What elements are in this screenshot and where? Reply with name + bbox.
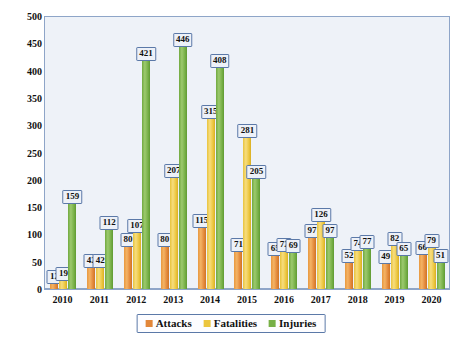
legend-item-fatalities[interactable]: Fatalities: [204, 317, 257, 329]
bar-group: 71281205: [229, 16, 266, 289]
bar-injuries-2016: 69: [289, 251, 297, 289]
bar-group: 80207446: [155, 16, 192, 289]
legend-item-label: Attacks: [156, 317, 192, 329]
legend-swatch-icon: [146, 320, 153, 327]
data-label: 65: [396, 242, 411, 256]
bar-group: 115315408: [192, 16, 229, 289]
y-tick-label: 300: [4, 120, 42, 131]
bar-injuries-2015: 205: [252, 177, 260, 289]
data-label: 159: [63, 190, 83, 204]
bar-group: 527477: [340, 16, 377, 289]
bar-fatalities-2016: 72: [280, 250, 288, 289]
bar-fatalities-2012: 107: [133, 231, 141, 289]
bar-group: 657269: [266, 16, 303, 289]
x-tick-label: 2010: [44, 292, 81, 310]
x-axis-tick-labels: 2010201120122013201420152016201720182019…: [44, 292, 450, 310]
bar-injuries-2018: 77: [363, 247, 371, 289]
bar-groups: 1219159424211280107421802074461153154087…: [45, 16, 450, 289]
bar-fatalities-2015: 281: [243, 136, 251, 289]
bar-attacks-2010: 12: [50, 282, 58, 289]
legend-item-injuries[interactable]: Injuries: [269, 317, 316, 329]
bar-attacks-2015: 71: [234, 250, 242, 289]
y-tick-label: 50: [4, 256, 42, 267]
legend-swatch-icon: [204, 320, 211, 327]
bar-fatalities-2010: 19: [59, 279, 67, 289]
y-tick-label: 400: [4, 65, 42, 76]
bar-group: 4242112: [82, 16, 119, 289]
legend-item-label: Injuries: [279, 317, 316, 329]
y-tick-label: 450: [4, 38, 42, 49]
y-tick-label: 150: [4, 202, 42, 213]
data-label: 126: [311, 208, 331, 222]
bar-injuries-2012: 421: [142, 59, 150, 289]
bar-injuries-2020: 51: [437, 261, 445, 289]
data-label: 69: [286, 239, 301, 253]
data-label: 281: [238, 124, 258, 138]
bar-group: 498265: [376, 16, 413, 289]
legend-item-attacks[interactable]: Attacks: [146, 317, 192, 329]
x-axis-line: [44, 289, 450, 290]
bar-attacks-2019: 49: [382, 262, 390, 289]
bar-attacks-2016: 65: [271, 254, 279, 289]
legend-swatch-icon: [269, 320, 276, 327]
legend-item-label: Fatalities: [214, 317, 257, 329]
x-tick-label: 2013: [155, 292, 192, 310]
bar-group: 667951: [413, 16, 450, 289]
x-tick-label: 2011: [81, 292, 118, 310]
bar-injuries-2014: 408: [216, 66, 224, 289]
data-label: 51: [433, 249, 448, 263]
bar-injuries-2013: 446: [179, 45, 187, 289]
bar-injuries-2019: 65: [400, 254, 408, 289]
y-tick-label: 100: [4, 229, 42, 240]
data-label: 79: [424, 234, 439, 248]
y-axis-tick-labels: 050100150200250300350400450500: [0, 0, 42, 350]
chart-legend: AttacksFatalitiesInjuries: [137, 314, 326, 333]
bar-group: 1219159: [45, 16, 82, 289]
bar-chart: 050100150200250300350400450500 121915942…: [0, 0, 462, 350]
bar-attacks-2020: 66: [419, 253, 427, 289]
data-label: 112: [100, 216, 119, 230]
data-label: 421: [136, 47, 156, 61]
bar-attacks-2017: 97: [308, 236, 316, 289]
x-tick-label: 2014: [192, 292, 229, 310]
data-label: 77: [359, 235, 374, 249]
data-label: 446: [173, 33, 193, 47]
bar-attacks-2011: 42: [87, 266, 95, 289]
bar-injuries-2011: 112: [105, 228, 113, 289]
y-tick-label: 350: [4, 92, 42, 103]
x-tick-label: 2019: [376, 292, 413, 310]
bar-attacks-2018: 52: [345, 261, 353, 289]
data-label: 205: [247, 165, 267, 179]
x-tick-label: 2018: [339, 292, 376, 310]
bar-attacks-2013: 80: [161, 245, 169, 289]
y-tick-label: 0: [4, 284, 42, 295]
bar-fatalities-2011: 42: [96, 266, 104, 289]
x-tick-label: 2012: [118, 292, 155, 310]
y-tick-label: 200: [4, 174, 42, 185]
y-tick-label: 500: [4, 11, 42, 22]
x-tick-label: 2015: [229, 292, 266, 310]
bar-fatalities-2014: 315: [207, 117, 215, 289]
bar-attacks-2014: 115: [198, 226, 206, 289]
bar-fatalities-2018: 74: [354, 249, 362, 289]
x-tick-label: 2020: [413, 292, 450, 310]
bar-group: 9712697: [303, 16, 340, 289]
bar-attacks-2012: 80: [124, 245, 132, 289]
x-tick-label: 2017: [302, 292, 339, 310]
bar-fatalities-2013: 207: [170, 176, 178, 289]
x-tick-label: 2016: [265, 292, 302, 310]
bar-injuries-2010: 159: [68, 202, 76, 289]
data-label: 408: [210, 54, 230, 68]
bar-injuries-2017: 97: [326, 236, 334, 289]
y-tick-label: 250: [4, 147, 42, 158]
bar-group: 80107421: [119, 16, 156, 289]
data-label: 97: [323, 224, 338, 238]
